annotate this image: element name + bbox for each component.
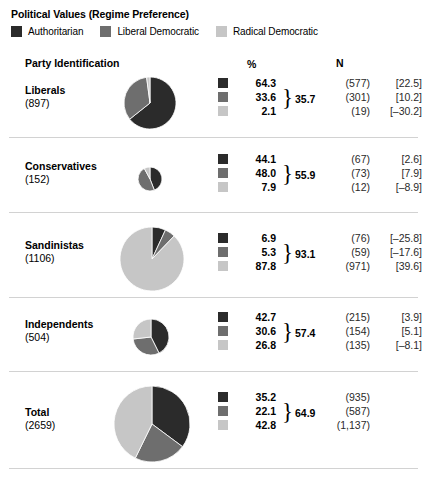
legend-swatch-icon-authoritarian bbox=[11, 26, 22, 37]
legend-entry-authoritarian: Authoritarian bbox=[11, 26, 83, 37]
value-bracket: [‒17.6] bbox=[376, 245, 422, 259]
value-bracket: [7.9] bbox=[376, 166, 422, 180]
value-n: (154) bbox=[322, 324, 370, 338]
brace-total-value: 57.4 bbox=[295, 327, 315, 339]
value-n: (19) bbox=[322, 104, 370, 118]
brace-total-value: 55.9 bbox=[295, 169, 315, 181]
legend-entry-liberal_democratic: Liberal Democratic bbox=[100, 26, 199, 37]
brace-icon: } bbox=[282, 402, 293, 422]
pie-slice-2 bbox=[120, 227, 184, 291]
value-n: (301) bbox=[322, 90, 370, 104]
row-label-conservatives: Conservatives(152) bbox=[25, 160, 97, 186]
legend-label: Radical Democratic bbox=[233, 26, 318, 37]
value-n: (67) bbox=[322, 152, 370, 166]
page-title: Political Values (Regime Preference) bbox=[11, 8, 189, 20]
value-n: (935) bbox=[322, 390, 370, 404]
row-divider bbox=[9, 297, 418, 298]
brace-icon: } bbox=[282, 243, 293, 263]
value-n: (577) bbox=[322, 76, 370, 90]
value-bracket: [‒30.2] bbox=[376, 104, 422, 118]
row-divider bbox=[9, 212, 418, 213]
value-percent: 48.0 bbox=[232, 166, 276, 180]
value-swatch-icon-2 bbox=[218, 182, 228, 192]
value-percent: 33.6 bbox=[232, 90, 276, 104]
value-swatch-icon-1 bbox=[218, 406, 228, 416]
row-group-name: Total bbox=[25, 406, 55, 419]
row-group-name: Independents bbox=[25, 318, 93, 331]
row-group-name: Liberals bbox=[25, 84, 65, 97]
value-bracket: [22.5] bbox=[376, 76, 422, 90]
value-percent: 30.6 bbox=[232, 324, 276, 338]
row-label-liberals: Liberals(897) bbox=[25, 84, 65, 110]
legend-entry-radical_democratic: Radical Democratic bbox=[216, 26, 318, 37]
column-header-percent: % bbox=[247, 58, 256, 70]
value-swatch-icon-1 bbox=[218, 247, 228, 257]
row-label-sandinistas: Sandinistas(1106) bbox=[25, 239, 84, 265]
value-n: (73) bbox=[322, 166, 370, 180]
value-percent: 87.8 bbox=[232, 259, 276, 273]
value-percent: 6.9 bbox=[232, 231, 276, 245]
value-percent: 44.1 bbox=[232, 152, 276, 166]
value-n: (59) bbox=[322, 245, 370, 259]
value-bracket: [39.6] bbox=[376, 259, 422, 273]
value-bracket: [2.6] bbox=[376, 152, 422, 166]
row-label-independents: Independents(504) bbox=[25, 318, 93, 344]
value-swatch-icon-2 bbox=[218, 340, 228, 350]
value-bracket: [10.2] bbox=[376, 90, 422, 104]
value-percent: 7.9 bbox=[232, 180, 276, 194]
value-percent: 2.1 bbox=[232, 104, 276, 118]
value-swatch-icon-2 bbox=[218, 420, 228, 430]
pie-chart-independents bbox=[132, 318, 170, 356]
pie-chart-total bbox=[113, 385, 191, 463]
value-n: (135) bbox=[322, 338, 370, 352]
value-n: (971) bbox=[322, 259, 370, 273]
row-group-name: Sandinistas bbox=[25, 239, 84, 252]
row-divider bbox=[9, 468, 418, 469]
brace-icon: } bbox=[282, 88, 293, 108]
value-swatch-icon-1 bbox=[218, 326, 228, 336]
value-swatch-icon-0 bbox=[218, 392, 228, 402]
row-group-count: (1106) bbox=[25, 252, 84, 265]
value-percent: 35.2 bbox=[232, 390, 276, 404]
value-swatch-icon-2 bbox=[218, 106, 228, 116]
row-label-total: Total(2659) bbox=[25, 406, 55, 432]
row-divider bbox=[9, 371, 418, 372]
value-n: (215) bbox=[322, 310, 370, 324]
value-n: (12) bbox=[322, 180, 370, 194]
brace-total-value: 35.7 bbox=[295, 93, 315, 105]
legend-label: Authoritarian bbox=[28, 26, 83, 37]
pie-slice-2 bbox=[133, 319, 151, 339]
value-percent: 26.8 bbox=[232, 338, 276, 352]
value-bracket: [5.1] bbox=[376, 324, 422, 338]
value-swatch-icon-0 bbox=[218, 312, 228, 322]
row-group-count: (2659) bbox=[25, 419, 55, 432]
pie-chart-table: Political Values (Regime Preference) Aut… bbox=[0, 0, 427, 477]
brace-icon: } bbox=[282, 322, 293, 342]
value-swatch-icon-1 bbox=[218, 92, 228, 102]
row-group-count: (504) bbox=[25, 331, 93, 344]
value-swatch-icon-0 bbox=[218, 78, 228, 88]
value-n: (587) bbox=[322, 404, 370, 418]
column-header-party: Party Identification bbox=[25, 57, 120, 69]
value-swatch-icon-0 bbox=[218, 233, 228, 243]
brace-total-value: 93.1 bbox=[295, 248, 315, 260]
value-percent: 22.1 bbox=[232, 404, 276, 418]
value-bracket: [‒8.9] bbox=[376, 180, 422, 194]
value-percent: 5.3 bbox=[232, 245, 276, 259]
value-swatch-icon-0 bbox=[218, 154, 228, 164]
value-swatch-icon-2 bbox=[218, 261, 228, 271]
legend-swatch-icon-radical_democratic bbox=[216, 26, 227, 37]
value-bracket: [3.9] bbox=[376, 310, 422, 324]
value-percent: 42.7 bbox=[232, 310, 276, 324]
value-bracket: [‒25.8] bbox=[376, 231, 422, 245]
brace-icon: } bbox=[282, 164, 293, 184]
brace-total-value: 64.9 bbox=[295, 407, 315, 419]
value-swatch-icon-1 bbox=[218, 168, 228, 178]
value-percent: 64.3 bbox=[232, 76, 276, 90]
pie-chart-conservatives bbox=[137, 166, 163, 192]
value-bracket: [‒8.1] bbox=[376, 338, 422, 352]
legend: AuthoritarianLiberal DemocraticRadical D… bbox=[11, 26, 335, 37]
row-group-count: (897) bbox=[25, 97, 65, 110]
column-header-n: N bbox=[336, 57, 344, 69]
value-percent: 42.8 bbox=[232, 418, 276, 432]
